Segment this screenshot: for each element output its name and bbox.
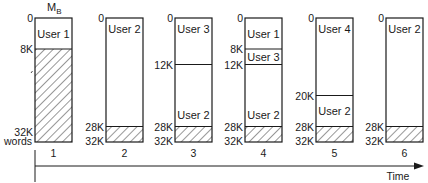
snapshot-3: 0User 312KUser 228K32K3	[154, 12, 212, 159]
address-label-end: 32K	[224, 135, 243, 147]
address-label-end: 32K	[154, 135, 173, 147]
user-region-label: User 1	[247, 28, 279, 40]
snapshot-6: 0User 228K32K6	[365, 12, 423, 159]
address-label-zero: 0	[378, 12, 384, 24]
time-step-label: 4	[261, 147, 267, 159]
free-space-region	[35, 49, 72, 142]
time-step-label: 6	[402, 147, 408, 159]
address-label-zero: 0	[237, 12, 243, 24]
address-label: 20K	[295, 90, 314, 102]
address-label-zero: 0	[27, 12, 33, 24]
stray-mark	[31, 71, 33, 73]
free-space-region	[106, 127, 143, 143]
snapshot-2: 0User 228K32K2	[85, 12, 143, 159]
memory-unit-label: words	[3, 135, 32, 147]
address-label-end: 32K	[295, 135, 314, 147]
user-region-label: User 2	[247, 109, 279, 121]
user-region-label: User 3	[177, 23, 209, 35]
address-label: 8K	[230, 43, 243, 55]
time-step-label: 3	[191, 147, 197, 159]
user-region-label: User 2	[108, 23, 140, 35]
user-region-label: User 2	[177, 109, 209, 121]
memory-box	[316, 18, 353, 142]
memory-title: MB	[47, 1, 62, 16]
address-label-zero: 0	[167, 12, 173, 24]
memory-title-main: M	[47, 1, 56, 13]
free-space-region	[316, 127, 353, 143]
time-step-label: 5	[332, 147, 338, 159]
address-label: 28K	[365, 121, 384, 133]
address-label: 28K	[295, 121, 314, 133]
memory-box	[175, 18, 212, 142]
user-region-label: User 2	[388, 23, 420, 35]
address-label: 12K	[224, 59, 243, 71]
snapshot-5: 0User 420KUser 228K32K5	[295, 12, 353, 159]
user-region-label: User 1	[37, 28, 69, 40]
memory-title-subscript: B	[56, 7, 61, 16]
time-axis-label: Time	[387, 170, 410, 182]
snapshot-4: 0User 18KUser 312KUser 228K32K4	[224, 12, 282, 159]
address-label: 28K	[154, 121, 173, 133]
memory-allocation-diagram: MB 0User 18K32K10User 228K32K20User 312K…	[0, 0, 428, 183]
address-label: 12K	[154, 59, 173, 71]
user-region-label: User 2	[318, 105, 350, 117]
address-label-zero: 0	[308, 12, 314, 24]
memory-box	[106, 18, 143, 142]
free-space-region	[245, 127, 282, 143]
address-label: 28K	[85, 121, 104, 133]
address-label: 8K	[20, 43, 33, 55]
address-label-zero: 0	[98, 12, 104, 24]
free-space-region	[175, 127, 212, 143]
time-axis-arrowhead	[414, 163, 424, 170]
user-region-label: User 4	[318, 23, 350, 35]
user-region-label: User 3	[247, 51, 279, 63]
address-label: 28K	[224, 121, 243, 133]
time-step-label: 2	[122, 147, 128, 159]
memory-box	[386, 18, 423, 142]
time-step-label: 1	[51, 147, 57, 159]
address-label-end: 32K	[85, 135, 104, 147]
address-label-end: 32K	[365, 135, 384, 147]
snapshot-columns: 0User 18K32K10User 228K32K20User 312KUse…	[14, 12, 423, 159]
free-space-region	[386, 127, 423, 143]
